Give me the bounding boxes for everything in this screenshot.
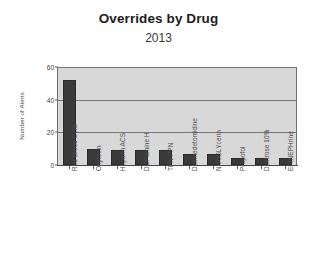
- x-tick-mark: [285, 166, 286, 169]
- chart-title: Overrides by Drug: [0, 11, 317, 26]
- x-tick-mark: [93, 166, 94, 169]
- x-tick-mark: [189, 166, 190, 169]
- chart-subtitle: 2013: [0, 31, 317, 45]
- y-axis-title: Number of Alerts: [14, 66, 28, 166]
- x-tick-mark: [69, 166, 70, 169]
- x-tick-mark: [261, 166, 262, 169]
- x-tick-mark: [141, 166, 142, 169]
- y-axis-title-text: Number of Alerts: [18, 92, 25, 140]
- bars-layer: [57, 67, 297, 165]
- x-tick-mark: [165, 166, 166, 169]
- x-tick-mark: [117, 166, 118, 169]
- bar-chart: Overrides by Drug 2013 Number of Alerts …: [0, 0, 317, 269]
- x-tick-mark: [237, 166, 238, 169]
- x-tick-mark: [213, 166, 214, 169]
